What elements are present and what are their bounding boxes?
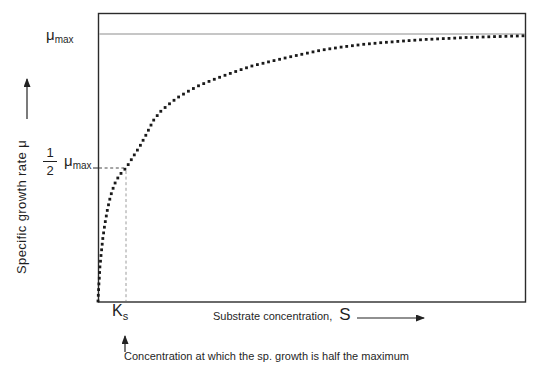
curve-dot [99,260,102,263]
curve-dot [97,294,100,297]
curve-dot [351,44,354,47]
curve-dot [499,35,502,38]
mu-max-subscript: max [73,160,92,171]
curve-dot [368,42,371,45]
curve-dot [133,154,136,157]
curve-dot [202,82,205,85]
curve-dot [229,72,232,75]
curve-dot [431,38,434,41]
x-axis-text: Substrate concentration, [213,311,332,322]
curve-dot [106,209,109,212]
curve-dot [278,58,281,61]
curve-dot [505,35,508,38]
curve-dot [152,119,155,122]
curve-dot [419,38,422,41]
curve-dot [173,99,176,102]
half-max-annotation: Concentration at which the sp. growth is… [124,351,409,362]
ks-label: Ks [112,303,128,322]
curve-dot [124,168,127,171]
curve-dot [98,283,101,286]
curve-dot [385,41,388,44]
curve-dot [413,39,416,42]
curve-dot [453,37,456,40]
curve-dot [102,232,105,235]
mu-symbol: μ [64,152,73,169]
curve-dot [139,144,142,147]
curve-dot [448,37,451,40]
monod-growth-figure: μmax Specific growth rate μ 1 2 μmax Ks … [0,0,547,378]
curve-dot [197,84,200,87]
curve-dot [465,36,468,39]
curve-dot [127,163,130,166]
curve-dot [402,40,405,43]
curve-dot [459,36,462,39]
fraction-numerator: 1 [44,146,55,161]
curve-dot [177,96,180,99]
one-half-fraction: 1 2 [43,146,57,177]
curve-dot [334,47,337,50]
curve-dot [103,226,106,229]
curve-dot [284,57,287,60]
curve-dot [224,74,227,77]
y-axis-label: Specific growth rate μ [15,140,28,274]
curve-dot [107,203,110,206]
curve-dot [262,62,265,65]
curve-dot [470,36,473,39]
curve-dot [192,87,195,90]
curve-dot [487,35,490,38]
curve-dot [120,172,123,175]
curve-dot [114,182,117,185]
curve-dot [425,38,428,41]
curve-dot [116,177,119,180]
x-axis-label: Substrate concentration, S [213,306,351,323]
curve-dot [150,124,153,127]
curve-dot [340,46,343,49]
curve-dot [300,53,303,56]
curve-dot [357,44,360,47]
curve-dot [108,198,111,201]
curve-dot [295,54,298,57]
curve-dot [396,40,399,43]
curve-dot [510,35,513,38]
curve-dot [213,78,216,81]
curve-dot [104,220,107,223]
curve-dot [112,187,115,190]
curve-dot [289,55,292,58]
curve-dot [156,114,159,117]
curve-dot [98,277,101,280]
curve-dot [147,129,150,132]
curve-dot [323,48,326,51]
curve-dot [306,52,309,55]
curve-dot [273,59,276,62]
curve-dot [251,65,254,68]
curve-dot [328,47,331,50]
curve-dot [482,36,485,39]
curve-dot [476,36,479,39]
curve-dot [379,41,382,44]
curve-dot [442,37,445,40]
curve-dot [256,63,259,66]
curve-dot [100,248,103,251]
substrate-symbol: S [339,306,350,323]
curve-dot [101,237,104,240]
curve-dot [362,43,365,46]
curve-dot [99,266,102,269]
curve-dot [105,215,108,218]
curve-dot [218,76,221,79]
curve-dot [110,192,113,195]
plot-border [99,14,526,303]
curve-dot [391,41,394,44]
growth-curve-dots [97,34,525,302]
curve-dot [436,38,439,41]
fraction-denominator: 2 [44,162,55,177]
curve-dot [208,80,211,83]
curve-dot [516,35,519,38]
curve-dot [374,42,377,45]
curve-dot [159,110,162,113]
curve-dot [164,106,167,109]
mu-symbol: μ [46,26,55,43]
curve-dot [345,45,348,48]
mu-max-label: μmax [46,27,74,45]
curve-dot [187,90,190,93]
ks-symbol: K [112,302,123,319]
